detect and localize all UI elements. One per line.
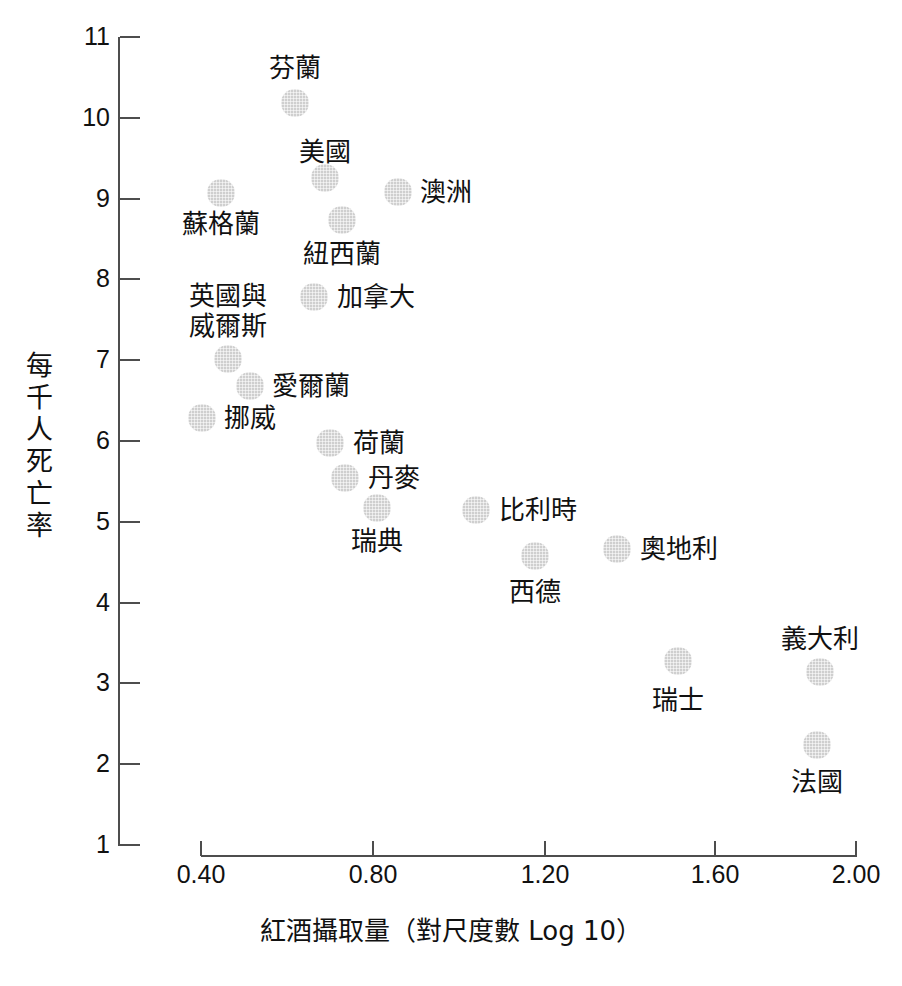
data-point-label: 紐西蘭 (303, 239, 381, 269)
data-point-label: 瑞士 (652, 685, 704, 715)
data-point (207, 179, 235, 207)
y-axis-tick (120, 36, 140, 38)
data-point-label: 美國 (299, 137, 351, 167)
y-axis-tick-label: 10 (68, 105, 110, 130)
y-axis-tick-label: 2 (68, 751, 110, 776)
data-point (311, 164, 339, 192)
data-point (281, 89, 309, 117)
x-axis-tick-label: 1.60 (670, 862, 760, 887)
x-axis-tick (544, 841, 546, 856)
y-axis-tick (120, 844, 140, 846)
x-axis-tick-label: 2.00 (811, 862, 901, 887)
data-point-label: 比利時 (499, 495, 577, 525)
data-point (384, 178, 412, 206)
y-axis-tick-label: 6 (68, 428, 110, 453)
x-axis-tick (714, 841, 716, 856)
data-point (803, 731, 831, 759)
data-point (521, 542, 549, 570)
x-axis-title: 紅酒攝取量（對尺度數 Log 10） (0, 910, 902, 947)
data-point-label: 愛爾蘭 (272, 371, 350, 401)
y-axis-tick (120, 682, 140, 684)
data-point-label: 加拿大 (337, 282, 415, 312)
data-point-label: 挪威 (224, 403, 276, 433)
data-point-label: 澳洲 (420, 177, 472, 207)
y-axis-tick (120, 278, 140, 280)
y-axis-tick-label: 1 (68, 832, 110, 857)
y-axis-tick (120, 440, 140, 442)
y-axis-tick-label: 5 (68, 509, 110, 534)
data-point (331, 464, 359, 492)
y-axis-tick (120, 602, 140, 604)
y-axis-tick (120, 521, 140, 523)
data-point (328, 206, 356, 234)
data-point-label: 英國與 威爾斯 (189, 281, 267, 341)
data-point-label: 義大利 (781, 624, 859, 654)
data-point-label: 蘇格蘭 (182, 209, 260, 239)
data-point (603, 535, 631, 563)
x-axis-tick-label: 1.20 (500, 862, 590, 887)
data-point (664, 647, 692, 675)
y-axis-title: 每千人死亡率 (22, 350, 56, 542)
x-axis-line (201, 855, 857, 857)
data-point (214, 345, 242, 373)
data-point-label: 丹麥 (368, 463, 420, 493)
y-axis-tick-label: 9 (68, 186, 110, 211)
data-point-label: 荷蘭 (353, 428, 405, 458)
x-axis-tick-label: 0.80 (328, 862, 418, 887)
data-point (188, 404, 216, 432)
x-axis-tick-label: 0.40 (156, 862, 246, 887)
data-point-label: 瑞典 (351, 526, 403, 556)
y-axis-tick-label: 4 (68, 590, 110, 615)
data-point (806, 658, 834, 686)
y-axis-tick-label: 8 (68, 266, 110, 291)
x-axis-tick (855, 841, 857, 856)
y-axis-tick (120, 359, 140, 361)
y-axis-tick-label: 7 (68, 347, 110, 372)
y-axis-tick-label: 3 (68, 670, 110, 695)
y-axis-tick-label: 11 (68, 24, 110, 49)
data-point (462, 496, 490, 524)
y-axis-tick (120, 198, 140, 200)
wine-mortality-scatter-chart: 1110987654321 0.400.801.201.602.00 芬蘭美國蘇… (0, 0, 902, 986)
data-point-label: 西德 (509, 577, 561, 607)
data-point-label: 奧地利 (640, 534, 718, 564)
data-point (300, 283, 328, 311)
x-axis-tick (200, 841, 202, 856)
y-axis-tick (120, 117, 140, 119)
y-axis-tick (120, 763, 140, 765)
data-point-label: 芬蘭 (269, 53, 321, 83)
data-point-label: 法國 (791, 767, 843, 797)
x-axis-tick (372, 841, 374, 856)
data-point (316, 429, 344, 457)
data-point (236, 372, 264, 400)
data-point (363, 494, 391, 522)
